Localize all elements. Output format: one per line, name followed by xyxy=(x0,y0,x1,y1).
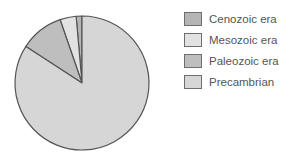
legend-item-paleozoic: Paleozoic era xyxy=(184,50,279,71)
pie-chart xyxy=(0,0,170,160)
legend: Cenozoic era Mesozoic era Paleozoic era … xyxy=(184,8,279,92)
legend-label: Mesozoic era xyxy=(209,34,277,46)
legend-label: Cenozoic era xyxy=(209,13,277,25)
legend-label: Paleozoic era xyxy=(209,55,279,67)
legend-swatch xyxy=(184,12,202,26)
legend-item-cenozoic: Cenozoic era xyxy=(184,8,279,29)
legend-swatch xyxy=(184,75,202,89)
legend-swatch xyxy=(184,54,202,68)
legend-item-precambrian: Precambrian xyxy=(184,71,279,92)
legend-swatch xyxy=(184,33,202,47)
legend-item-mesozoic: Mesozoic era xyxy=(184,29,279,50)
legend-label: Precambrian xyxy=(209,76,274,88)
